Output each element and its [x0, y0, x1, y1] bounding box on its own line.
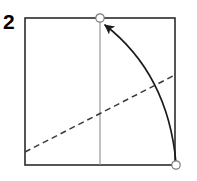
- fold-diagram-canvas: [0, 0, 197, 181]
- fold-diagram-figure: 2: [0, 0, 197, 181]
- vertex-marker-top-icon: [96, 14, 104, 22]
- vertex-marker-bottom-right-icon: [172, 161, 180, 169]
